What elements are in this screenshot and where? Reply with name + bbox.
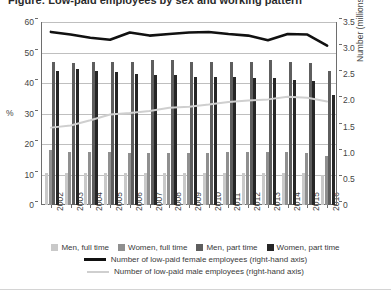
x-tick-mark <box>71 205 72 208</box>
legend-item: Men, full time <box>51 243 109 252</box>
chart-legend: Men, full timeWomen, full timeMen, part … <box>0 243 391 279</box>
left-axis-tick: 20 <box>8 140 34 149</box>
tick-mark <box>339 44 342 45</box>
legend-line-female-row: Number of low-paid female employees (rig… <box>0 255 391 264</box>
x-tick-mark <box>150 205 151 208</box>
legend-item: Women, part time <box>267 243 340 252</box>
legend-item: Number of low-paid male employees (right… <box>87 267 304 276</box>
tick-mark <box>35 49 38 50</box>
legend-item: Women, full time <box>118 243 187 252</box>
x-tick-mark <box>209 205 210 208</box>
left-axis-tick: 40 <box>8 79 34 88</box>
x-tick-mark <box>307 205 308 208</box>
legend-label: Women, part time <box>277 243 340 252</box>
left-axis-tick: 60 <box>8 18 34 27</box>
legend-swatch <box>196 244 203 251</box>
tick-mark <box>35 18 38 19</box>
x-tick-mark <box>90 205 91 208</box>
x-tick-mark <box>169 205 170 208</box>
legend-label: Men, part time <box>206 243 257 252</box>
bottom-divider <box>0 289 391 290</box>
right-axis-tick: 2.0 <box>343 96 373 105</box>
x-tick-mark <box>228 205 229 208</box>
legend-line-swatch <box>87 271 109 273</box>
x-tick-mark <box>189 205 190 208</box>
left-axis-tick: 30 <box>8 110 34 119</box>
right-axis-tick: 1.5 <box>343 123 373 132</box>
legend-label: Number of low-paid female employees (rig… <box>111 255 308 264</box>
tick-mark <box>35 110 38 111</box>
legend-swatch <box>118 244 125 251</box>
x-tick-mark <box>248 205 249 208</box>
legend-item: Men, part time <box>196 243 257 252</box>
tick-mark <box>35 140 38 141</box>
right-axis-tick: 0.5 <box>343 175 373 184</box>
tick-mark <box>339 18 342 19</box>
left-axis-tick: 50 <box>8 49 34 58</box>
left-axis-tick: 10 <box>8 171 34 180</box>
tick-mark <box>35 201 38 202</box>
page-title: Figure: Low-paid employees by sex and wo… <box>8 0 302 6</box>
left-axis-tick: 0 <box>8 201 34 210</box>
chart-figure: Figure: Low-paid employees by sex and wo… <box>0 0 391 294</box>
line-series <box>51 97 327 128</box>
tick-mark <box>339 70 342 71</box>
right-axis-tick: 0 <box>343 201 373 210</box>
x-tick-mark <box>51 205 52 208</box>
right-axis-tick: 3.0 <box>343 44 373 53</box>
right-axis-tick: 3.5 <box>343 18 373 27</box>
tick-mark <box>35 79 38 80</box>
line-series-layer <box>41 22 337 205</box>
legend-bars-row: Men, full timeWomen, full timeMen, part … <box>0 243 391 252</box>
tick-mark <box>339 123 342 124</box>
x-tick-mark <box>327 205 328 208</box>
legend-swatch <box>267 244 274 251</box>
tick-mark <box>339 96 342 97</box>
right-axis-tick: 1.0 <box>343 149 373 158</box>
tick-mark <box>339 149 342 150</box>
legend-label: Men, full time <box>61 243 109 252</box>
legend-line-male-row: Number of low-paid male employees (right… <box>0 267 391 276</box>
legend-item: Number of low-paid female employees (rig… <box>84 255 308 264</box>
legend-line-swatch <box>84 258 106 261</box>
x-tick-mark <box>130 205 131 208</box>
x-tick-mark <box>268 205 269 208</box>
x-tick-mark <box>288 205 289 208</box>
line-series <box>51 32 327 46</box>
legend-label: Women, full time <box>128 243 187 252</box>
x-tick-mark <box>110 205 111 208</box>
tick-mark <box>35 171 38 172</box>
legend-swatch <box>51 244 58 251</box>
legend-label: Number of low-paid male employees (right… <box>114 267 304 276</box>
tick-mark <box>339 175 342 176</box>
chart-title-clipped: Figure: Low-paid employees by sex and wo… <box>0 0 391 12</box>
right-axis-label: Number (millions) <box>355 0 365 62</box>
right-axis-tick: 2.5 <box>343 70 373 79</box>
